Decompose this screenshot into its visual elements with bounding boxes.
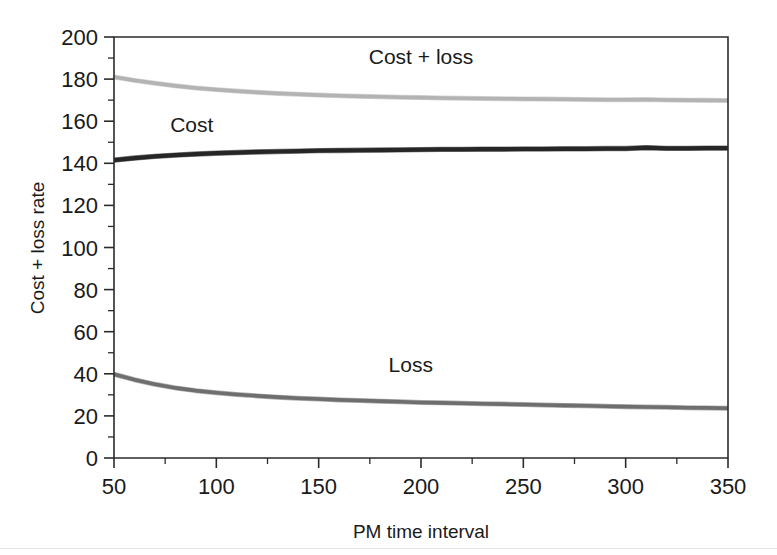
x-tick-label: 50 bbox=[102, 474, 126, 499]
y-tick-label: 20 bbox=[74, 404, 98, 429]
y-tick-label: 0 bbox=[86, 446, 98, 471]
y-tick-label: 200 bbox=[61, 25, 98, 50]
y-tick-label: 120 bbox=[61, 193, 98, 218]
chart-figure: 0204060801001201401601802005010015020025… bbox=[0, 0, 777, 555]
y-tick-label: 80 bbox=[74, 278, 98, 303]
x-tick-label: 100 bbox=[198, 474, 235, 499]
y-tick-label: 40 bbox=[74, 362, 98, 387]
y-tick-label: 100 bbox=[61, 236, 98, 261]
y-tick-label: 180 bbox=[61, 67, 98, 92]
cost-loss-rate-line-chart: 0204060801001201401601802005010015020025… bbox=[0, 0, 777, 555]
series-label-cost-loss: Cost + loss bbox=[369, 45, 473, 68]
x-tick-label: 250 bbox=[505, 474, 542, 499]
y-tick-label: 140 bbox=[61, 151, 98, 176]
x-axis-title: PM time interval bbox=[353, 521, 489, 542]
y-tick-label: 60 bbox=[74, 320, 98, 345]
y-tick-label: 160 bbox=[61, 109, 98, 134]
series-label-loss: Loss bbox=[389, 353, 433, 376]
x-tick-label: 200 bbox=[403, 474, 440, 499]
page-divider bbox=[0, 548, 777, 549]
x-tick-label: 350 bbox=[710, 474, 747, 499]
y-axis-title: Cost + loss rate bbox=[27, 182, 48, 315]
series-label-cost: Cost bbox=[170, 113, 213, 136]
x-tick-label: 300 bbox=[607, 474, 644, 499]
x-tick-label: 150 bbox=[300, 474, 337, 499]
